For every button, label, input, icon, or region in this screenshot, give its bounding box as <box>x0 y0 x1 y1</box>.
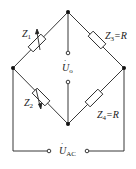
z3-resistor <box>88 31 106 49</box>
z3-label: Z3=R <box>105 31 127 43</box>
source-voltage-label: ·UAC <box>59 146 76 158</box>
z4-resistor <box>85 89 103 107</box>
z1-label: Z1 <box>22 29 31 41</box>
z2-label: Z2 <box>24 98 33 110</box>
output-voltage-label: ·Uo <box>62 63 73 75</box>
circuit-wiring <box>0 0 136 169</box>
bridge-circuit-diagram: Z1 Z3=R Z2 Z4=R ·Uo ·UAC <box>0 0 136 169</box>
z4-label: Z4=R <box>97 110 119 122</box>
